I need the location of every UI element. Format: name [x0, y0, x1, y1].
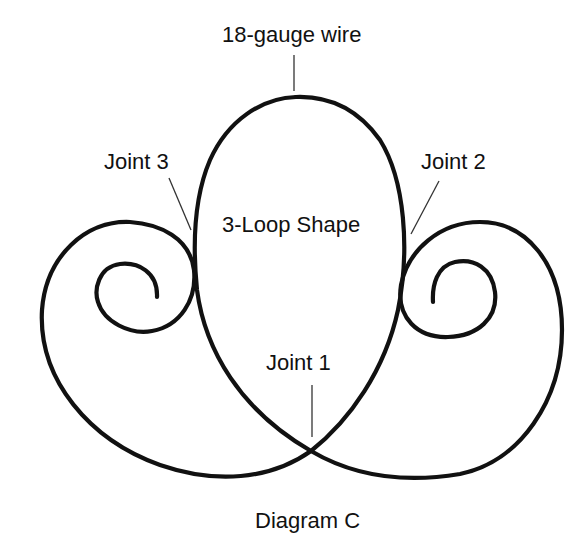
- diagram-caption: Diagram C: [255, 510, 360, 532]
- joint2-label: Joint 2: [421, 151, 486, 173]
- joint2-pointer-line: [411, 181, 439, 234]
- shape-name-label: 3-Loop Shape: [222, 214, 360, 236]
- central-loop-wire: [195, 97, 562, 478]
- wire-gauge-label: 18-gauge wire: [222, 24, 361, 46]
- joint3-pointer-line: [169, 178, 191, 230]
- wire-shape-drawing: [0, 0, 582, 555]
- diagram-canvas: 18-gauge wire Joint 3 Joint 2 3-Loop Sha…: [0, 0, 582, 555]
- joint3-label: Joint 3: [104, 151, 169, 173]
- joint1-label: Joint 1: [266, 352, 331, 374]
- left-spiral-wire: [42, 97, 404, 477]
